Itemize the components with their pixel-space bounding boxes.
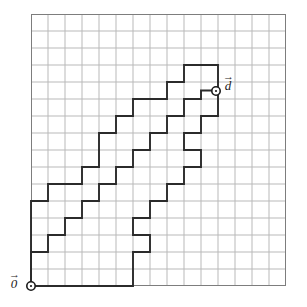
origin-vector-label: → 0 — [9, 270, 19, 290]
path-middle — [31, 91, 218, 287]
lattice-diagram-canvas — [0, 0, 307, 307]
lattice-path-figure: → 0 → d — [0, 0, 307, 307]
destination-marker-dot — [215, 90, 217, 92]
endpoint-markers — [27, 87, 220, 290]
lattice-paths — [31, 65, 218, 286]
grid-lines — [31, 14, 286, 286]
destination-vector-label: → d — [223, 72, 233, 92]
path-lower — [31, 91, 218, 287]
origin-marker-dot — [30, 285, 32, 287]
